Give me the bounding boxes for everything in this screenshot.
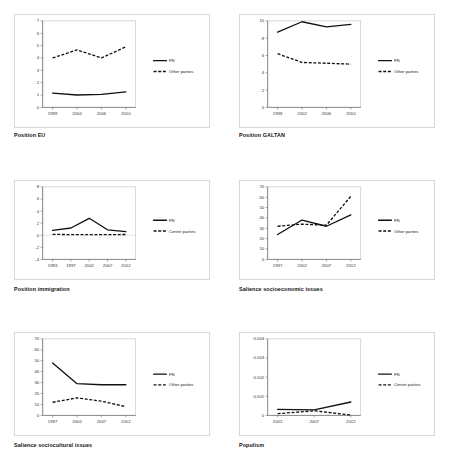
svg-text:0: 0 [262, 413, 265, 418]
chart-caption: Salience sociocultural issues [14, 442, 92, 448]
svg-text:4: 4 [37, 55, 40, 60]
svg-text:2: 2 [262, 88, 265, 93]
svg-text:70: 70 [34, 336, 39, 341]
svg-text:0: 0 [37, 413, 40, 418]
chart-panel-populism: 00.0010.0020.0030.004200220072012FNCentr… [225, 318, 450, 473]
svg-text:FN: FN [394, 58, 400, 63]
svg-text:1993: 1993 [48, 263, 58, 268]
svg-text:70: 70 [259, 184, 264, 189]
svg-text:0: 0 [37, 233, 40, 238]
svg-text:Centre parties: Centre parties [394, 382, 421, 387]
svg-text:2007: 2007 [310, 419, 320, 424]
svg-text:6: 6 [37, 31, 40, 36]
svg-text:2006: 2006 [97, 111, 107, 116]
svg-text:2002: 2002 [85, 263, 95, 268]
svg-text:8: 8 [37, 184, 40, 189]
svg-text:0.004: 0.004 [253, 336, 264, 341]
svg-text:-2: -2 [35, 245, 39, 250]
svg-text:1: 1 [37, 92, 40, 97]
svg-text:1997: 1997 [66, 263, 76, 268]
chart-caption: Populism [239, 442, 264, 448]
svg-text:2012: 2012 [121, 263, 131, 268]
svg-text:30: 30 [259, 226, 264, 231]
plot-frame: 012345671999200220062010FNOther parties [14, 14, 210, 128]
svg-text:2002: 2002 [72, 419, 82, 424]
plot-area: 012345671999200220062010FNOther parties [15, 15, 209, 127]
svg-text:50: 50 [259, 205, 264, 210]
plot-area: -4-20246819931997200220072012FNCentre pa… [15, 181, 209, 279]
svg-text:2012: 2012 [346, 419, 356, 424]
chart-panel-position-galtan: 02468101998200220062010FNOther parties P… [225, 0, 450, 166]
svg-text:10: 10 [259, 247, 264, 252]
chart-caption: Position immigration [14, 286, 70, 292]
chart-panel-salience-socioeconomic: 0102030405060701997200220072012FNOther p… [225, 166, 450, 318]
svg-text:Other parties: Other parties [169, 382, 194, 387]
chart-caption: Position EU [14, 132, 45, 138]
chart-svg-salience-sociocultural: 0102030405060701997200220072012FNOther p… [15, 333, 209, 435]
chart-svg-salience-socioeconomic: 0102030405060701997200220072012FNOther p… [240, 181, 434, 279]
chart-panel-position-immigration: -4-20246819931997200220072012FNCentre pa… [0, 166, 225, 318]
svg-text:1999: 1999 [48, 111, 58, 116]
svg-text:2006: 2006 [322, 111, 332, 116]
svg-text:0.003: 0.003 [253, 355, 264, 360]
svg-text:50: 50 [34, 358, 39, 363]
svg-text:2012: 2012 [346, 263, 356, 268]
svg-text:2002: 2002 [297, 111, 307, 116]
svg-text:60: 60 [259, 195, 264, 200]
svg-text:6: 6 [262, 53, 265, 58]
svg-text:30: 30 [34, 380, 39, 385]
svg-text:FN: FN [169, 218, 175, 223]
svg-text:6: 6 [37, 196, 40, 201]
svg-text:2002: 2002 [72, 111, 82, 116]
svg-text:FN: FN [394, 372, 400, 377]
svg-text:2007: 2007 [322, 263, 332, 268]
svg-text:2010: 2010 [346, 111, 356, 116]
svg-text:60: 60 [34, 347, 39, 352]
svg-text:2010: 2010 [121, 111, 131, 116]
svg-text:Other parties: Other parties [169, 69, 194, 74]
svg-text:2: 2 [37, 80, 40, 85]
svg-text:2002: 2002 [297, 263, 307, 268]
plot-area: 0102030405060701997200220072012FNOther p… [15, 333, 209, 435]
chart-panel-salience-sociocultural: 0102030405060701997200220072012FNOther p… [0, 318, 225, 473]
plot-frame: -4-20246819931997200220072012FNCentre pa… [14, 180, 210, 280]
svg-text:2002: 2002 [273, 419, 283, 424]
svg-text:2: 2 [37, 221, 40, 226]
svg-text:10: 10 [259, 18, 264, 23]
plot-frame: 00.0010.0020.0030.004200220072012FNCentr… [239, 332, 435, 436]
plot-frame: 02468101998200220062010FNOther parties [239, 14, 435, 128]
svg-text:3: 3 [37, 68, 40, 73]
chart-svg-populism: 00.0010.0020.0030.004200220072012FNCentr… [240, 333, 434, 435]
figure-grid: 012345671999200220062010FNOther parties … [0, 0, 450, 473]
svg-text:2012: 2012 [121, 419, 131, 424]
svg-text:2007: 2007 [97, 419, 107, 424]
svg-text:20: 20 [259, 236, 264, 241]
plot-area: 0102030405060701997200220072012FNOther p… [240, 181, 434, 279]
svg-text:FN: FN [169, 58, 175, 63]
svg-text:0: 0 [37, 105, 40, 110]
svg-text:0.001: 0.001 [253, 394, 264, 399]
svg-text:40: 40 [34, 369, 39, 374]
svg-text:1998: 1998 [273, 111, 283, 116]
plot-frame: 0102030405060701997200220072012FNOther p… [239, 180, 435, 280]
chart-panel-position-eu: 012345671999200220062010FNOther parties … [0, 0, 225, 166]
chart-svg-position-eu: 012345671999200220062010FNOther parties [15, 15, 209, 127]
svg-text:Other parties: Other parties [394, 69, 419, 74]
plot-area: 00.0010.0020.0030.004200220072012FNCentr… [240, 333, 434, 435]
svg-text:Other parties: Other parties [394, 229, 419, 234]
svg-text:1997: 1997 [273, 263, 283, 268]
svg-text:-4: -4 [35, 257, 39, 262]
svg-text:10: 10 [34, 402, 39, 407]
chart-caption: Salience socioeconomic issues [239, 286, 323, 292]
chart-svg-position-immigration: -4-20246819931997200220072012FNCentre pa… [15, 181, 209, 279]
svg-text:Centre parties: Centre parties [169, 229, 196, 234]
chart-caption: Position GALTAN [239, 132, 285, 138]
svg-text:7: 7 [37, 18, 40, 23]
svg-text:4: 4 [262, 70, 265, 75]
svg-text:20: 20 [34, 391, 39, 396]
svg-text:1997: 1997 [48, 419, 58, 424]
plot-frame: 0102030405060701997200220072012FNOther p… [14, 332, 210, 436]
svg-text:8: 8 [262, 36, 265, 41]
svg-text:2007: 2007 [103, 263, 113, 268]
plot-area: 02468101998200220062010FNOther parties [240, 15, 434, 127]
